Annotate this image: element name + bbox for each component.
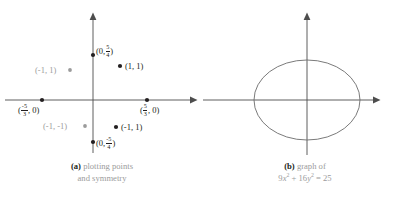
caption-a-text1: plotting points [83, 161, 133, 171]
panel-b-svg [203, 0, 407, 158]
caption-a-text2: and symmetry [0, 172, 204, 184]
label-suffix: , 0) [28, 105, 39, 115]
point-dot-neg1-1-gray [68, 68, 72, 72]
panel-b-plot-area [203, 0, 407, 158]
caption-b-tag: (b) [284, 161, 295, 171]
label-suffix: ) [112, 138, 115, 148]
equation-equals: = [316, 173, 321, 183]
label-point-1-1: (1, 1) [125, 62, 143, 71]
fraction-denominator: 3 [21, 111, 27, 118]
panel-a-plotting-points: (0,54) (1, 1) (-53, 0) (53, 0) (-1, 1) (… [0, 0, 204, 200]
caption-b-text1: graph of [297, 161, 326, 171]
fraction-neg5-over-3: -53 [21, 103, 27, 118]
label-suffix: ) [110, 46, 113, 56]
figure-container: (0,54) (1, 1) (-53, 0) (53, 0) (-1, 1) (… [0, 0, 407, 200]
caption-a-tag: (a) [71, 161, 81, 171]
panel-b-graph-of-ellipse: (b) graph of 9x2 + 16y2 = 25 [203, 0, 407, 200]
point-dot-x-intercept-negative [40, 98, 44, 102]
label-point-neg1-1-reflected: (-1, 1) [121, 123, 142, 132]
label-prefix: (0, [96, 138, 105, 148]
label-prefix: (0, [96, 46, 105, 56]
label-point-neg1-neg1-gray: (-1, -1) [43, 122, 67, 131]
label-y-intercept-positive: (0,54) [96, 44, 113, 59]
x-axis-arrowhead-icon [190, 97, 198, 104]
fraction-numerator: -5 [106, 136, 112, 143]
label-point-neg1-1-gray: (-1, 1) [35, 66, 56, 75]
point-dot-neg1-1-reflected [114, 125, 118, 129]
panel-a-svg [0, 0, 204, 158]
equation-exp-y: 2 [311, 173, 314, 179]
fraction-denominator: 3 [143, 111, 147, 118]
fraction-numerator: 5 [143, 103, 147, 110]
label-x-intercept-positive: (53, 0) [140, 103, 159, 118]
label-suffix: , 0) [148, 105, 159, 115]
y-axis-arrowhead-icon [90, 13, 97, 21]
point-dot-neg1-neg1-gray [83, 124, 87, 128]
point-dot-y-intercept-positive [91, 53, 95, 57]
fraction-denominator: 4 [106, 144, 112, 151]
panel-a-plot-area [0, 0, 204, 158]
label-y-intercept-negative: (0,-54) [96, 136, 115, 151]
fraction-neg5-over-4: -54 [106, 136, 112, 151]
caption-a-line1: (a) plotting points [0, 160, 204, 172]
label-x-intercept-negative: (-53, 0) [18, 103, 39, 118]
equation-exp-x: 2 [286, 173, 289, 179]
panel-b-caption: (b) graph of 9x2 + 16y2 = 25 [203, 160, 407, 185]
point-dot-1-1 [118, 64, 122, 68]
y-axis-arrowhead-icon [304, 13, 311, 21]
equation-rhs: 25 [323, 173, 332, 183]
caption-b-equation: 9x2 + 16y2 = 25 [203, 172, 407, 184]
equation-coef-y: 16 [299, 173, 308, 183]
caption-b-line1: (b) graph of [203, 160, 407, 172]
equation-plus: + [292, 173, 297, 183]
fraction-numerator: -5 [21, 103, 27, 110]
panel-a-caption: (a) plotting points and symmetry [0, 160, 204, 185]
point-dot-y-intercept-negative [91, 140, 95, 144]
fraction-5-over-3: 53 [143, 103, 147, 118]
x-axis-arrowhead-icon [373, 97, 381, 104]
